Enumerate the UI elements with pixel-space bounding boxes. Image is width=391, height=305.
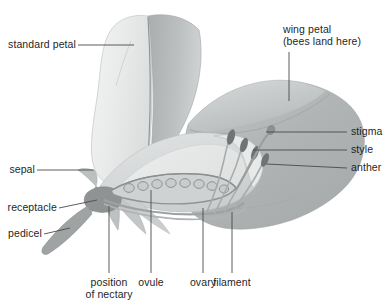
label-filament: filament [204,276,260,289]
label-standard-petal: standard petal [4,38,76,51]
label-style: style [351,143,391,156]
label-anther: anther [351,161,391,174]
label-pedicel: pedicel [2,227,42,240]
flower-diagram-figure: standard petal wing petal (bees land her… [0,0,391,305]
label-wing-petal-line1: wing petal [283,23,387,36]
label-stigma: stigma [351,125,391,138]
label-position-of-nectary-line2: of nectary [74,288,144,301]
label-receptacle: receptacle [0,201,57,214]
label-ovule: ovule [128,276,174,289]
label-wing-petal-line2: (bees land here) [283,35,387,48]
label-sepal: sepal [2,163,35,176]
